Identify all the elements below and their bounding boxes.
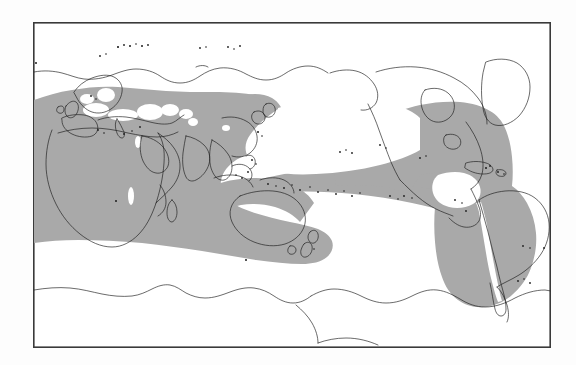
hole-interior-asia bbox=[222, 125, 230, 131]
distribution-map-figure bbox=[0, 0, 576, 365]
hole-north-sea bbox=[80, 94, 94, 104]
hole-black-sea bbox=[161, 104, 179, 116]
hole-caspian bbox=[179, 109, 193, 119]
hole-iberia-gap bbox=[83, 103, 109, 117]
world-map-svg bbox=[0, 0, 576, 365]
hole-aral bbox=[188, 118, 198, 126]
hole-mediterranean-east bbox=[137, 104, 163, 120]
hole-mediterranean-west bbox=[108, 109, 138, 121]
hole-baltic bbox=[97, 88, 115, 102]
hole-east-africa-rift bbox=[128, 187, 134, 205]
